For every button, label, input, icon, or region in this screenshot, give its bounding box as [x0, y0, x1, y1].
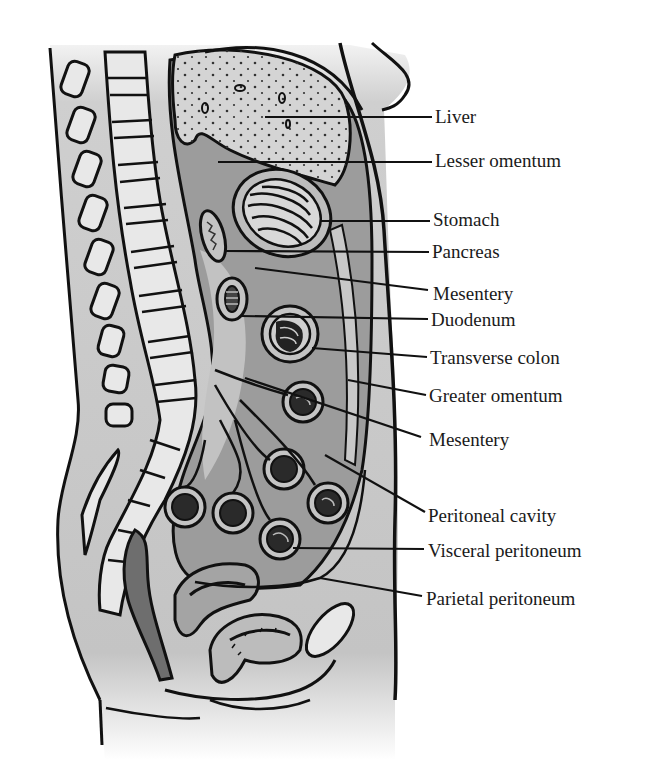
label-duodenum: Duodenum	[431, 310, 515, 329]
duodenum	[217, 278, 247, 320]
label-greater-omentum: Greater omentum	[429, 386, 562, 405]
label-liver: Liver	[435, 107, 476, 126]
transverse-colon	[262, 306, 318, 362]
label-parietal-peritoneum: Parietal peritoneum	[426, 589, 575, 608]
label-lesser-omentum: Lesser omentum	[435, 151, 561, 170]
label-stomach: Stomach	[433, 210, 500, 229]
label-visceral-peritoneum: Visceral peritoneum	[428, 541, 581, 560]
label-mesentery-upper: Mesentery	[433, 284, 513, 303]
label-mesentery-lower: Mesentery	[429, 430, 509, 449]
anatomy-illustration	[0, 0, 658, 761]
label-pancreas: Pancreas	[432, 242, 500, 261]
diagram-canvas: Liver Lesser omentum Stomach Pancreas Me…	[0, 0, 658, 761]
label-transverse-colon: Transverse colon	[430, 348, 560, 367]
label-peritoneal-cavity: Peritoneal cavity	[428, 506, 556, 525]
